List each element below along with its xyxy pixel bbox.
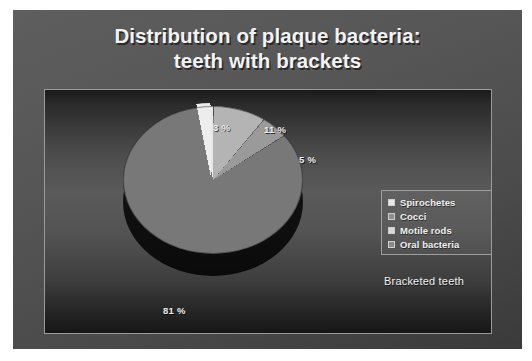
legend-swatch-motile-rods xyxy=(388,227,395,234)
legend-swatch-oral-bacteria xyxy=(388,241,395,248)
legend-item-spirochetes: Spirochetes xyxy=(388,195,492,209)
legend-label-cocci: Cocci xyxy=(400,211,426,222)
page-title-line-2: teeth with brackets xyxy=(13,48,522,73)
legend-swatch-cocci xyxy=(388,213,395,220)
legend-label-spirochetes: Spirochetes xyxy=(400,197,455,208)
chart-legend: Spirochetes Cocci Motile rods Oral bacte… xyxy=(381,190,492,255)
page-title: Distribution of plaque bacteria: teeth w… xyxy=(13,23,522,73)
chart-plot-area: 3 % 11 % 5 % 81 % Spirochetes Cocci Moti… xyxy=(44,89,492,334)
legend-label-oral-bacteria: Oral bacteria xyxy=(400,239,459,250)
legend-item-cocci: Cocci xyxy=(388,209,492,223)
legend-swatch-spirochetes xyxy=(388,199,395,206)
data-label-oral-bacteria: 81 % xyxy=(163,305,186,316)
chart-caption: Bracketed teeth xyxy=(384,275,464,287)
page-title-line-1: Distribution of plaque bacteria: xyxy=(13,23,522,48)
legend-item-oral-bacteria: Oral bacteria xyxy=(388,237,492,251)
legend-item-motile-rods: Motile rods xyxy=(388,223,492,237)
data-label-cocci: 11 % xyxy=(264,124,286,135)
data-label-motile-rods: 5 % xyxy=(299,154,316,165)
data-label-spirochetes: 3 % xyxy=(213,122,230,133)
presentation-slide: Distribution of plaque bacteria: teeth w… xyxy=(13,10,522,349)
legend-label-motile-rods: Motile rods xyxy=(400,225,452,236)
